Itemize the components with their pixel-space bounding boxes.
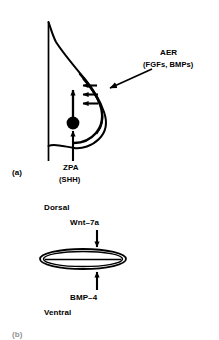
bmp4-label: BMP–4 <box>70 293 97 303</box>
ventral-label: Ventral <box>44 308 71 318</box>
limb-bud-ventral-outline <box>49 145 75 148</box>
panel-b-tag: (b) <box>12 330 23 340</box>
aer-pointer-arrow <box>110 69 152 88</box>
limb-bud-dorsal-outline <box>49 22 106 148</box>
dorsal-label: Dorsal <box>44 203 70 213</box>
zpa-label: ZPA <box>63 163 79 173</box>
zpa-node <box>67 117 80 130</box>
panel-a-tag: (a) <box>12 168 22 178</box>
panel-b-graphics <box>40 230 126 290</box>
aer-factors-label: (FGFs, BMPs) <box>143 60 193 70</box>
wnt7a-label: Wnt–7a <box>70 218 99 228</box>
zpa-factor-label: (SHH) <box>59 175 80 185</box>
aer-label: AER <box>160 48 177 58</box>
panel-a-graphics <box>49 22 153 161</box>
